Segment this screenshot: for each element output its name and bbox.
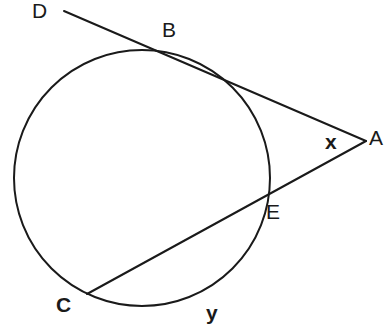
secant-line-CA — [87, 141, 366, 294]
tangent-line-DA — [64, 11, 366, 141]
point-label-d: D — [32, 0, 47, 21]
arc-label-y: y — [206, 302, 218, 323]
point-label-b: B — [162, 19, 176, 40]
circle-shape — [14, 50, 270, 306]
point-label-a: A — [369, 127, 383, 148]
point-label-c: C — [56, 294, 71, 315]
point-label-e: E — [266, 201, 280, 222]
angle-label-x: x — [325, 131, 337, 152]
